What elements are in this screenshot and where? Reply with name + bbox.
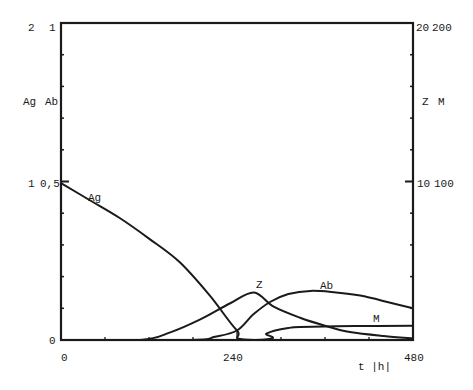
right-axis-label-m: M [438, 97, 445, 108]
left-axis-mid-ag-tick: 1 [28, 179, 35, 190]
x-axis-tick-240: 240 [223, 353, 243, 364]
curve-label-ab: Ab [320, 281, 333, 292]
data-curves [61, 183, 413, 340]
curve-label-ag: Ag [88, 193, 101, 204]
right-axis-mid-z-tick: 10 [417, 179, 430, 190]
right-axis-top-z-tick: 20 [416, 23, 429, 34]
right-axis-top-m-tick: 200 [432, 23, 452, 34]
left-axis-top-ag-tick: 2 [28, 23, 35, 34]
x-axis-tick-480: 480 [404, 353, 424, 364]
curve-label-m: M [373, 314, 380, 325]
plot-frame [61, 23, 413, 340]
curve-label-z: Z [256, 280, 263, 291]
right-axis-mid-m-tick: 100 [434, 179, 454, 190]
x-axis-label: t |h| [358, 362, 391, 373]
right-axis-label-z: Z [422, 97, 429, 108]
left-axis-label-ab: Ab [45, 97, 58, 108]
left-axis-top-ab-tick: 1 [49, 23, 56, 34]
left-axis-label-ag: Ag [23, 97, 36, 108]
curve-ag [61, 183, 413, 340]
x-axis-tick-0: 0 [61, 353, 68, 364]
axis-ticks [61, 55, 413, 340]
chart-canvas [0, 0, 473, 390]
plot-border [61, 23, 413, 340]
left-axis-mid-ab-tick: 0,5 [40, 179, 60, 190]
left-axis-zero-tick: 0 [49, 336, 56, 347]
